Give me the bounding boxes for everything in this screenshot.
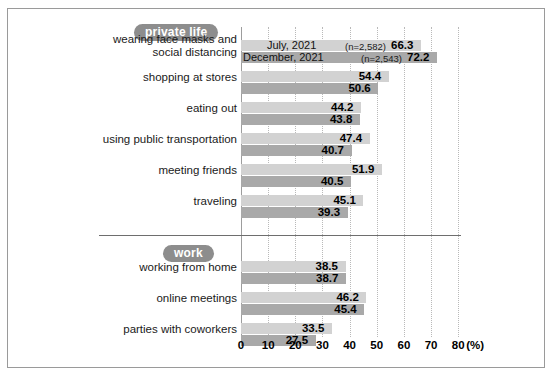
bar-value-label: 43.8 bbox=[330, 114, 352, 125]
category-label: using public transportation bbox=[37, 133, 237, 146]
x-axis-tick-50: 50 bbox=[370, 339, 383, 351]
x-axis-tick-70: 70 bbox=[425, 339, 438, 351]
bar-value-label: 47.4 bbox=[340, 133, 362, 144]
bar-value-label: 46.2 bbox=[336, 292, 358, 303]
bar-value-label: 54.4 bbox=[359, 71, 381, 82]
bar-value-label: 38.5 bbox=[316, 261, 338, 272]
category-label: wearing face masks andsocial distancing bbox=[37, 33, 237, 59]
chart-plot-area: private life work wearing face masks and… bbox=[8, 9, 546, 369]
category-label: parties with coworkers bbox=[37, 323, 237, 336]
legend-label-december: December, 2021 bbox=[243, 52, 324, 63]
category-label: online meetings bbox=[37, 292, 237, 305]
x-axis-tick-80: 80 bbox=[452, 339, 465, 351]
bar-value-label: 45.4 bbox=[334, 304, 356, 315]
bar-value-label: 45.1 bbox=[333, 195, 355, 206]
sample-size-july: (n=2,582) bbox=[345, 41, 386, 52]
bar-value-label: 40.7 bbox=[322, 145, 344, 156]
bar-value-label: 38.7 bbox=[316, 273, 338, 284]
x-axis-tick-40: 40 bbox=[343, 339, 356, 351]
x-axis-unit-label: (%) bbox=[466, 339, 484, 351]
bar-value-label: 39.3 bbox=[318, 207, 340, 218]
bar-row: meeting friends51.940.5 bbox=[8, 163, 546, 191]
x-axis-tick-0: 0 bbox=[238, 339, 244, 351]
x-axis-tick-10: 10 bbox=[262, 339, 275, 351]
legend-label-july: July, 2021 bbox=[267, 40, 316, 51]
bar-value-label: 72.2 bbox=[407, 52, 429, 63]
category-label: working from home bbox=[37, 261, 237, 274]
category-label: meeting friends bbox=[37, 164, 237, 177]
section-divider bbox=[99, 235, 461, 236]
x-axis-tick-60: 60 bbox=[397, 339, 410, 351]
bar-value-label: 51.9 bbox=[352, 164, 374, 175]
bar-row: working from home38.538.7 bbox=[8, 260, 546, 288]
x-axis-tick-30: 30 bbox=[316, 339, 329, 351]
x-axis-tick-20: 20 bbox=[289, 339, 302, 351]
bar-row: eating out44.243.8 bbox=[8, 101, 546, 129]
sample-size-december: (n=2,543) bbox=[361, 53, 402, 64]
bar-row: shopping at stores54.450.6 bbox=[8, 70, 546, 98]
x-axis: 01020304050607080(%) bbox=[8, 339, 546, 359]
category-label: traveling bbox=[37, 195, 237, 208]
category-label: eating out bbox=[37, 102, 237, 115]
bar-value-label: 50.6 bbox=[348, 83, 370, 94]
bar-value-label: 40.5 bbox=[321, 176, 343, 187]
chart-frame: private life work wearing face masks and… bbox=[7, 8, 545, 368]
bar-row: traveling45.139.3 bbox=[8, 194, 546, 222]
bar-row: wearing face masks andsocial distancing6… bbox=[8, 39, 546, 67]
bar-row: online meetings46.245.4 bbox=[8, 291, 546, 319]
category-label: shopping at stores bbox=[37, 71, 237, 84]
bar-value-label: 44.2 bbox=[331, 102, 353, 113]
bar-value-label: 66.3 bbox=[391, 40, 413, 51]
bar-row: using public transportation47.440.7 bbox=[8, 132, 546, 160]
bar-value-label: 33.5 bbox=[302, 323, 324, 334]
